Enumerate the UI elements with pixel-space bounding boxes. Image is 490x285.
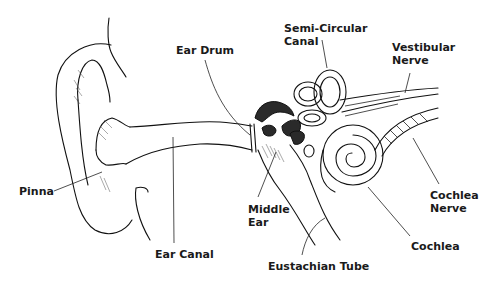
middle-ear-leader	[258, 152, 276, 197]
label-ear-drum: Ear Drum	[176, 44, 234, 57]
eustachian-tube-leader	[302, 218, 325, 255]
label-pinna: Pinna	[19, 185, 54, 198]
label-cochlea: Cochlea	[411, 240, 460, 253]
label-cochlea-nerve: Cochlea Nerve	[430, 189, 479, 215]
label-semi-circular-canal: Semi-Circular Canal	[284, 22, 367, 48]
pinna-leader	[54, 172, 102, 191]
ear-canal-leader	[173, 137, 174, 243]
label-middle-ear: Middle Ear	[248, 203, 290, 229]
label-ear-canal: Ear Canal	[155, 248, 214, 261]
label-vestibular-nerve: Vestibular Nerve	[392, 41, 455, 67]
ear-drum-leader	[205, 60, 250, 135]
cochlea-leader	[368, 187, 410, 236]
ear-anatomy-diagram: Ear Drum Semi-Circular Canal Vestibular …	[0, 0, 490, 285]
label-eustachian-tube: Eustachian Tube	[268, 260, 369, 273]
cochlea-nerve-leader	[413, 138, 439, 184]
